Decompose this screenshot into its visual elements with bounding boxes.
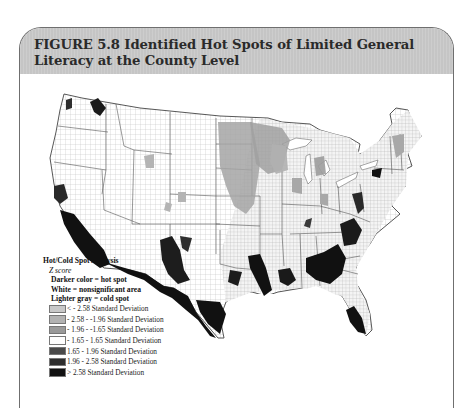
legend-label: 1.65 - 1.96 Standard Deviation (67, 347, 157, 356)
legend-swatch (49, 358, 66, 367)
legend-heading: Hot/Cold Spot Analysis (43, 256, 164, 266)
legend-item: - 2.58 - -1.96 Standard Deviation (49, 314, 164, 325)
legend-swatch (49, 315, 66, 324)
legend-item: 1.96 - 2.58 Standard Deviation (49, 356, 164, 367)
legend-label: - 1.65 - 1.65 Standard Deviation (67, 336, 161, 345)
legend-label: - 2.58 - -1.96 Standard Deviation (67, 315, 164, 324)
legend-label: - 1.96 - -1.65 Standard Deviation (67, 325, 164, 334)
legend-swatch (49, 347, 66, 356)
legend-note-nonsig: White = nonsignificant area (43, 285, 164, 295)
legend-swatch (49, 326, 66, 335)
legend-label: > 2.58 Standard Deviation (67, 368, 144, 377)
legend-item: 1.65 - 1.96 Standard Deviation (49, 346, 164, 357)
legend-swatch (49, 305, 66, 314)
legend-item: < - 2.58 Standard Deviation (49, 304, 164, 315)
legend-swatch (49, 368, 66, 377)
legend-item: > 2.58 Standard Deviation (49, 367, 164, 378)
legend-item: - 1.65 - 1.65 Standard Deviation (49, 335, 164, 346)
figure-frame: FIGURE 5.8 Identified Hot Spots of Limit… (19, 27, 454, 408)
legend-label: < - 2.58 Standard Deviation (67, 304, 148, 313)
legend-note-cold: Lighter gray = cold spot (43, 294, 164, 304)
legend-subheading: Z score (43, 266, 164, 276)
legend-swatch (49, 336, 66, 345)
legend-note-hot: Darker color = hot spot (43, 275, 164, 285)
legend-item: - 1.96 - -1.65 Standard Deviation (49, 325, 164, 336)
map-legend: Hot/Cold Spot Analysis Z score Darker co… (43, 256, 164, 378)
legend-label: 1.96 - 2.58 Standard Deviation (67, 357, 157, 366)
figure-title: FIGURE 5.8 Identified Hot Spots of Limit… (34, 37, 444, 69)
figure-header: FIGURE 5.8 Identified Hot Spots of Limit… (20, 28, 453, 74)
